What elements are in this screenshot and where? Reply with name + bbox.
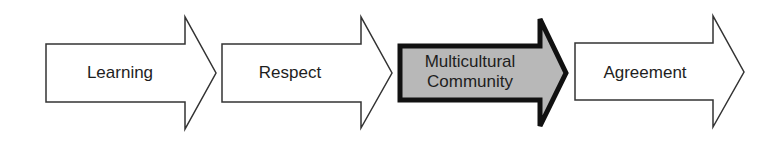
step-label-multicultural: Multicultural: [405, 52, 535, 72]
step-label-learning: Learning: [60, 63, 180, 83]
step-label-respect: Respect: [230, 63, 350, 83]
step-label-community: Community: [405, 72, 535, 92]
step-label-agreement: Agreement: [585, 63, 705, 83]
